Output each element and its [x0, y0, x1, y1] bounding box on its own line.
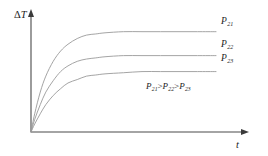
chart-plot-area: ΔT t P21 P22 P23 P21>P22>P23 — [0, 0, 268, 156]
curve-series-2 — [31, 71, 216, 132]
curve-label-series-2: P23 — [220, 53, 233, 64]
y-axis-arrowhead — [28, 9, 34, 17]
curve-label-series-1: P22 — [220, 39, 233, 50]
y-axis-label: ΔT — [14, 9, 28, 20]
relation-annotation: P21>P22>P23 — [145, 81, 191, 92]
curve-series-1 — [31, 56, 216, 132]
chart-figure: ΔT t P21 P22 P23 P21>P22>P23 — [0, 0, 268, 156]
x-axis-arrowhead — [241, 129, 249, 135]
x-axis-label: t — [236, 139, 240, 150]
curve-label-series-0: P21 — [220, 16, 233, 27]
curve-series-0 — [31, 32, 216, 132]
